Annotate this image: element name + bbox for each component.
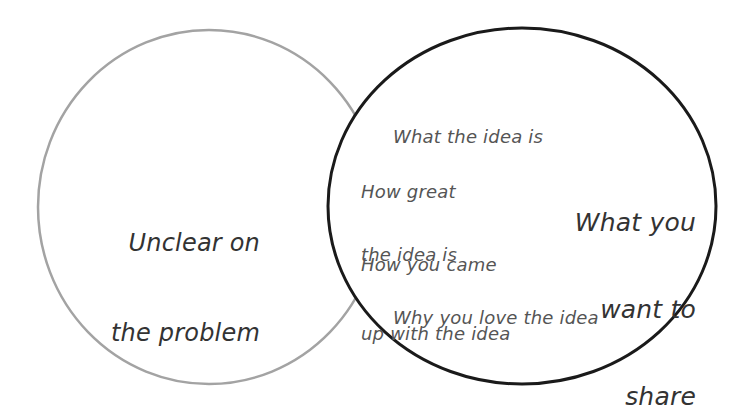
left-label-line-1: Unclear on [76,228,260,258]
left-label-line-2: the problem [76,318,260,348]
title-line-1: What you [556,208,696,237]
title-line-3: share [556,382,696,409]
left-circle-label: Unclear on the problem [76,168,260,378]
title-line-2: want to [556,295,696,324]
item-line: How great [361,181,457,202]
right-circle-title: What you want to share [556,150,696,409]
